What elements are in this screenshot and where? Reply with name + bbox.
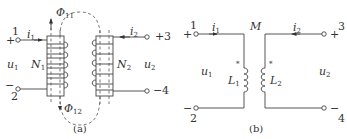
label-u1: u1	[7, 58, 19, 72]
inductor-l1	[244, 68, 248, 92]
label-i2: i2	[130, 25, 138, 39]
inductor-l2	[261, 68, 265, 92]
label-l1: L1	[227, 74, 240, 88]
label-phi12: Φ12	[64, 102, 82, 116]
terminal-3-b	[322, 32, 326, 36]
caption-a: (a)	[73, 123, 87, 134]
label-terminal-2-b: 2	[190, 112, 197, 125]
label-terminal-2: 2	[11, 90, 18, 103]
label-i1: i1	[27, 28, 35, 42]
label-u1-b: u1	[201, 65, 213, 79]
label-phi11: Φ11	[56, 6, 74, 20]
label-terminal-4-b: 4	[338, 112, 345, 125]
label-terminal-3: 3	[164, 30, 171, 43]
label-plus-1-b: +	[183, 28, 192, 41]
label-i1-b: i1	[212, 21, 220, 35]
terminal-1	[16, 38, 20, 42]
label-minus-4: −	[153, 84, 162, 97]
terminal-3	[145, 35, 149, 39]
terminal-4-b	[322, 106, 326, 110]
coil2-core	[96, 36, 113, 96]
terminal-2-b	[194, 106, 198, 110]
terminal-4	[145, 89, 149, 93]
label-i2-b: i2	[293, 21, 301, 35]
label-plus-1: +	[6, 34, 15, 47]
wire-right-loop	[265, 34, 322, 68]
label-terminal-3-b: 3	[338, 20, 345, 33]
coil2-windings	[92, 40, 113, 90]
caption-b: (b)	[249, 123, 263, 134]
label-u2-b: u2	[319, 65, 331, 79]
label-mutual-m: M	[249, 20, 262, 33]
coil1-windings	[47, 42, 68, 88]
coil1-core	[47, 36, 64, 96]
label-u2: u2	[144, 58, 156, 72]
label-n2: N2	[116, 58, 131, 72]
figure-b-coupled-inductors: * * 1 + − 2 + 3 − 4 i1 i2 M u1 u2 L1 L2 …	[183, 19, 345, 134]
terminal-1-b	[194, 32, 198, 36]
dot-marker-l2: *	[269, 60, 273, 68]
label-terminal-4: 4	[162, 84, 169, 97]
dot-marker-l1: *	[236, 60, 240, 68]
label-plus-3: +	[155, 30, 164, 43]
figure-a-coupled-coils: 1 + − 2 + 3 − 4 i1 i2 u1 u2 N1 N2 Φ11 Φ1…	[5, 6, 171, 134]
label-l2: L2	[269, 74, 282, 88]
label-n1: N1	[30, 58, 45, 72]
